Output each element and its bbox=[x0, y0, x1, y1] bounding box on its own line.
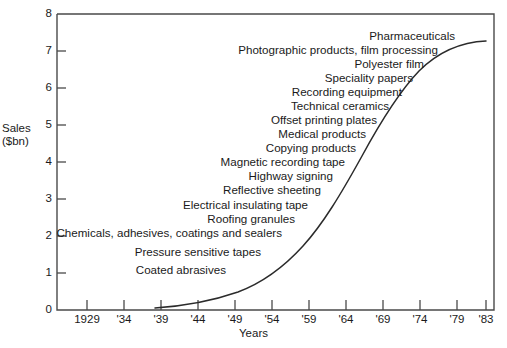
y-tick-label-7: 7 bbox=[32, 45, 52, 57]
y-tick-label-4: 4 bbox=[32, 156, 52, 168]
annotation-chemicals-adhesives: Chemicals, adhesives, coatings and seale… bbox=[56, 227, 282, 239]
annotation-medical-products: Medical products bbox=[278, 128, 366, 140]
x-tick-label-64: '64 bbox=[329, 314, 363, 326]
y-tick-label-3: 3 bbox=[32, 193, 52, 205]
annotation-pharmaceuticals: Pharmaceuticals bbox=[369, 30, 455, 42]
y-tick-label-1: 1 bbox=[32, 267, 52, 279]
annotation-photographic-products: Photographic products, film processing bbox=[238, 44, 438, 56]
y-axis-title-line2: ($bn) bbox=[2, 135, 54, 148]
x-tick-label-74: '74 bbox=[403, 314, 437, 326]
annotation-electrical-insulating-tape: Electrical insulating tape bbox=[183, 199, 308, 211]
annotation-polyester-film: Polyester film bbox=[354, 58, 424, 70]
x-axis-title: Years bbox=[0, 327, 507, 339]
sales-growth-chart: 8 7 6 5 4 3 2 1 0 Sales ($bn) 1929 '34 '… bbox=[0, 0, 507, 348]
annotation-speciality-papers: Speciality papers bbox=[325, 72, 413, 84]
x-tick-label-1929: 1929 bbox=[64, 314, 110, 326]
annotation-magnetic-recording-tape: Magnetic recording tape bbox=[221, 156, 345, 168]
y-axis-title-line1: Sales bbox=[2, 122, 54, 135]
annotation-highway-signing: Highway signing bbox=[249, 170, 333, 182]
x-tick-marks bbox=[87, 300, 486, 310]
annotation-reflective-sheeting: Reflective sheeting bbox=[223, 184, 321, 196]
annotation-coated-abrasives: Coated abrasives bbox=[136, 264, 226, 276]
x-tick-label-83: '83 bbox=[469, 314, 503, 326]
annotation-technical-ceramics: Technical ceramics bbox=[291, 100, 389, 112]
x-tick-label-49: '49 bbox=[218, 314, 252, 326]
x-tick-label-44: '44 bbox=[181, 314, 215, 326]
x-tick-label-59: '59 bbox=[292, 314, 326, 326]
x-tick-label-54: '54 bbox=[255, 314, 289, 326]
y-tick-label-8: 8 bbox=[32, 8, 52, 20]
annotation-offset-printing-plates: Offset printing plates bbox=[271, 114, 377, 126]
x-tick-label-69: '69 bbox=[366, 314, 400, 326]
y-tick-label-2: 2 bbox=[32, 230, 52, 242]
y-tick-marks bbox=[57, 51, 66, 273]
x-tick-label-39: '39 bbox=[144, 314, 178, 326]
annotation-recording-equipment: Recording equipment bbox=[292, 86, 402, 98]
annotation-copying-products: Copying products bbox=[266, 142, 356, 154]
x-tick-label-34: '34 bbox=[107, 314, 141, 326]
y-axis-title: Sales ($bn) bbox=[2, 122, 54, 148]
y-tick-label-0: 0 bbox=[32, 304, 52, 316]
annotation-roofing-granules: Roofing granules bbox=[207, 213, 295, 225]
y-tick-label-6: 6 bbox=[32, 82, 52, 94]
annotation-pressure-sensitive-tapes: Pressure sensitive tapes bbox=[135, 246, 261, 258]
